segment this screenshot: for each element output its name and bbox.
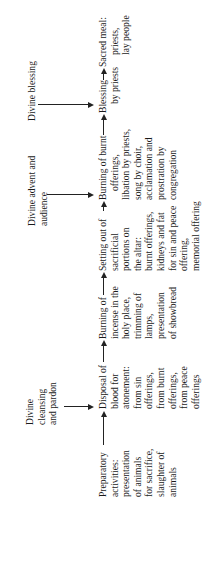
divine-blessing-label: Divine blessing <box>26 61 38 121</box>
step-preparatory: Preparatory activities: presentation of … <box>97 449 178 497</box>
arrowhead-right-icon <box>101 114 107 120</box>
divine-advent-label: Divine advent and audience <box>26 156 49 226</box>
step-setting-out-portions: Setting out of sacrificial portions on t… <box>97 201 201 271</box>
divine-cleansing-arrow <box>64 406 88 407</box>
flow-arrow <box>103 346 104 362</box>
divine-cleansing-label: Divine cleansing and pardon <box>24 382 59 425</box>
flow-arrow <box>103 278 104 295</box>
step-burning-of-incense: Burning of incense in the holy place, tr… <box>97 286 178 339</box>
step-burning-of-burnt-offerings: Burning of burnt offerings, libation by … <box>97 129 178 200</box>
divine-blessing-arrow <box>38 104 88 105</box>
arrowhead-down-icon <box>88 102 94 108</box>
arrowhead-right-icon <box>101 68 107 74</box>
arrowhead-right-icon <box>101 201 107 207</box>
flow-arrow <box>103 417 104 445</box>
arrowhead-right-icon <box>101 340 107 346</box>
arrowhead-down-icon <box>88 404 94 410</box>
flow-arrow <box>103 120 104 135</box>
sacrifice-ritual-flow-diagram: Divine cleansing and pardon Divine adven… <box>0 0 224 564</box>
flow-arrow <box>103 207 104 211</box>
divine-advent-arrow <box>47 194 88 195</box>
arrowhead-right-icon <box>101 411 107 417</box>
arrowhead-right-icon <box>101 272 107 278</box>
step-disposal-of-blood: Disposal of blood for atonement: from si… <box>97 365 201 409</box>
arrowhead-down-icon <box>88 192 94 198</box>
step-sacred-meal: Sacred meal: priests, lay people <box>97 15 132 67</box>
